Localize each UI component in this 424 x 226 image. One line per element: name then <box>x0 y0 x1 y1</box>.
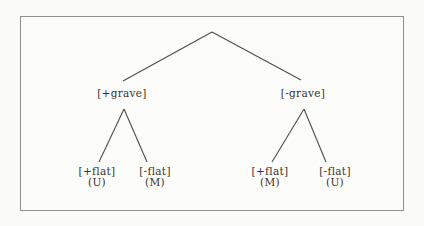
leaf-minus-flat-u: [-flat] (U) <box>319 166 351 188</box>
leaf-value: (M) <box>139 177 171 188</box>
node-minus-grave: [-grave] <box>281 88 325 99</box>
leaf-value: (M) <box>252 177 289 188</box>
leaf-value: (U) <box>79 177 116 188</box>
leaf-plus-flat-u: [+flat] (U) <box>79 166 116 188</box>
leaf-value: (U) <box>319 177 351 188</box>
scanned-page: [+grave] [-grave] [+flat] (U) [-flat] (M… <box>0 0 424 226</box>
leaf-minus-flat-m: [-flat] (M) <box>139 166 171 188</box>
leaf-plus-flat-m: [+flat] (M) <box>252 166 289 188</box>
node-plus-grave: [+grave] <box>97 88 147 99</box>
